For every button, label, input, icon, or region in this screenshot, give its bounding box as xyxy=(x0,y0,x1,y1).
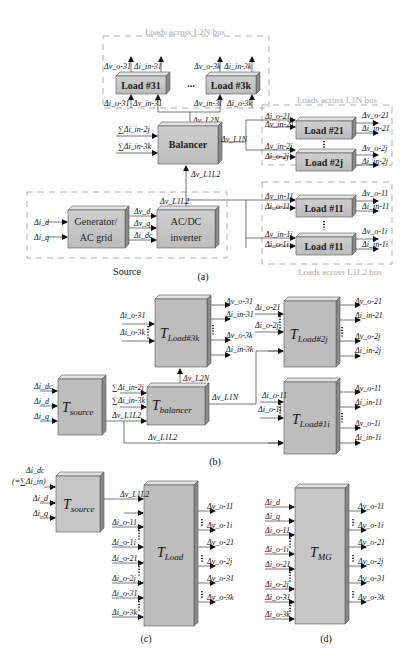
svg-text:Δv_o-31: Δv_o-31 xyxy=(103,62,131,71)
svg-text:Δv_L1N: Δv_L1N xyxy=(211,393,239,402)
svg-text:Δv_in-21: Δv_in-21 xyxy=(264,120,294,129)
svg-text:Δi_dc: Δi_dc xyxy=(25,466,45,475)
svg-text:Δi_in-31: Δi_in-31 xyxy=(133,62,162,71)
svg-text:inverter: inverter xyxy=(170,232,202,243)
svg-text:Generator/: Generator/ xyxy=(75,216,118,227)
svg-text:Δi_q: Δi_q xyxy=(33,412,49,421)
block-load-11: Load #11 xyxy=(296,195,356,217)
tload-outputs: Δv_o-11 Δv_o-1i Δv_o-21 Δv_o-2j Δv_o-31 … xyxy=(198,502,234,602)
tmg-outputs: Δv_o-11 Δv_o-1i Δv_o-21 Δv_o-2j Δv_o-31 … xyxy=(349,502,385,602)
figure: Loads across L2N bus Loads across L1N bu… xyxy=(0,0,408,664)
group-source-label: Source xyxy=(113,266,141,277)
group-l2n-label: Loads across L2N bus xyxy=(145,27,226,37)
svg-text:Δi_o-1i: Δi_o-1i xyxy=(264,545,289,554)
svg-text:Δi_in-2j: Δi_in-2j xyxy=(361,157,389,166)
svg-text:∑Δi_in-3k: ∑Δi_in-3k xyxy=(118,142,152,151)
svg-text:Δv_in-3l: Δv_in-3l xyxy=(193,99,222,108)
caption-a: (a) xyxy=(197,271,208,283)
svg-text:Δv_L1L2: Δv_L1L2 xyxy=(159,197,189,206)
svg-text:Δi_o-31: Δi_o-31 xyxy=(103,99,130,108)
svg-text:Δi_o-31: Δi_o-31 xyxy=(119,311,146,320)
svg-text:Δi_d: Δi_d xyxy=(32,494,49,503)
caption-b: (b) xyxy=(209,456,221,468)
group-l1l2-label: Loads across L1L2 bus xyxy=(298,267,382,277)
block-load-31: Load #31 xyxy=(116,72,170,94)
block-t-source: Tsource xyxy=(58,375,106,435)
svg-text:Δv_o-11: Δv_o-11 xyxy=(357,502,384,511)
svg-text:Δi_d: Δi_d xyxy=(33,218,50,227)
svg-text:Δv_o-3k: Δv_o-3k xyxy=(206,593,234,602)
block-load-3k: Load #3k xyxy=(206,72,260,94)
svg-text:Δi_o-2j: Δi_o-2j xyxy=(264,152,290,161)
svg-text:Δv_o-1i: Δv_o-1i xyxy=(357,521,383,530)
svg-text:Δv_o-2j: Δv_o-2j xyxy=(361,144,388,153)
block-t-source-c: Tsource xyxy=(56,472,104,532)
svg-text:Δv_q: Δv_q xyxy=(133,219,150,228)
svg-text:Δi_dc: Δi_dc xyxy=(133,231,153,240)
svg-text:Load #3k: Load #3k xyxy=(211,80,252,91)
block-generator-ac-grid: Generator/ AC grid xyxy=(68,206,129,248)
block-t-load-2j: TLoad#2j xyxy=(284,297,340,367)
svg-text:Δi_o-31: Δi_o-31 xyxy=(264,593,291,602)
svg-text:Δi_q: Δi_q xyxy=(264,512,280,521)
svg-text:Δv_o-21: Δv_o-21 xyxy=(354,297,382,306)
svg-text:Δi_o-21: Δi_o-21 xyxy=(111,554,138,563)
svg-text:Δi_o-3k: Δi_o-3k xyxy=(226,99,253,108)
svg-text:Δi_o-21: Δi_o-21 xyxy=(254,303,281,312)
svg-text:Δi_o-1i: Δi_o-1i xyxy=(111,538,136,547)
ellipsis: ... xyxy=(187,78,195,89)
block-t-load-3k: TLoad#3k xyxy=(155,295,211,367)
block-load-2j: Load #2j xyxy=(296,149,356,171)
svg-text:AC/DC: AC/DC xyxy=(171,216,202,227)
svg-text:Δi_in-1i: Δi_in-1i xyxy=(361,240,388,249)
svg-text:Load #11: Load #11 xyxy=(304,203,343,214)
svg-text:Load #11: Load #11 xyxy=(304,241,343,252)
svg-text:Load #21: Load #21 xyxy=(304,125,344,136)
svg-text:Δv_o-11: Δv_o-11 xyxy=(361,189,388,198)
svg-text:Load #2j: Load #2j xyxy=(305,157,343,168)
svg-text:Δv_L1L2: Δv_L1L2 xyxy=(111,411,141,420)
panel-c: Tsource Δi_dc (=∑Δi_in) Δi_d Δi_q TLoad … xyxy=(12,466,234,645)
svg-text:Δv_in-2j: Δv_in-2j xyxy=(264,142,293,151)
svg-text:Δv_o-11: Δv_o-11 xyxy=(206,502,233,511)
svg-text:Δv_o-2j: Δv_o-2j xyxy=(206,557,233,566)
svg-text:Δv_L2N: Δv_L2N xyxy=(182,374,210,383)
svg-text:Δv_o-21: Δv_o-21 xyxy=(357,538,385,547)
svg-text:Δi_in-11: Δi_in-11 xyxy=(361,202,389,211)
svg-text:Δi_in-1i: Δi_in-1i xyxy=(354,433,381,442)
svg-text:Δv_o-21: Δv_o-21 xyxy=(206,538,234,547)
svg-text:Δi_in-3k: Δi_in-3k xyxy=(225,345,254,354)
svg-text:Δi_o-31: Δi_o-31 xyxy=(111,589,138,598)
block-t-mg: TMG xyxy=(295,484,349,624)
svg-text:Δv_L1L2: Δv_L1L2 xyxy=(147,433,177,442)
svg-text:Δv_in-1i: Δv_in-1i xyxy=(264,230,292,239)
svg-text:Δv_o-1i: Δv_o-1i xyxy=(361,227,387,236)
svg-text:Δi_o-1i: Δi_o-1i xyxy=(257,405,282,414)
svg-text:Δv_o-31: Δv_o-31 xyxy=(357,574,385,583)
svg-text:Δv_o-31: Δv_o-31 xyxy=(225,297,253,306)
tload-inputs: Δi_o-11 Δi_o-1i Δi_o-21 Δi_o-2j Δi_o-31 … xyxy=(111,518,143,617)
svg-text:∑Δi_in-3k: ∑Δi_in-3k xyxy=(112,396,146,405)
svg-text:Δv_in-31: Δv_in-31 xyxy=(132,99,162,108)
svg-text:Δv_o-1i: Δv_o-1i xyxy=(354,419,380,428)
group-l1n-label: Loads across L1N bus xyxy=(297,95,378,105)
svg-text:Δv_o-2j: Δv_o-2j xyxy=(357,557,384,566)
svg-text:Δi_in-3k: Δi_in-3k xyxy=(223,62,252,71)
svg-text:Δi_d: Δi_d xyxy=(264,498,281,507)
svg-text:Δv_L1N: Δv_L1N xyxy=(220,135,248,144)
svg-text:Δi_q: Δi_q xyxy=(32,509,48,518)
svg-text:Δv_o-1i: Δv_o-1i xyxy=(206,521,232,530)
svg-text:Δv_d: Δv_d xyxy=(133,207,151,216)
panel-a: Loads across L2N bus Loads across L1N bu… xyxy=(27,27,392,283)
svg-text:Δi_o-11: Δi_o-11 xyxy=(264,202,290,211)
svg-text:Δi_in-2j: Δi_in-2j xyxy=(354,346,382,355)
svg-text:Δi_in-11: Δi_in-11 xyxy=(354,398,382,407)
svg-text:Δi_o-3k: Δi_o-3k xyxy=(111,608,138,617)
tmg-inputs: Δi_d Δi_q Δi_o-11 Δi_o-1i Δi_o-21 Δi_o-2… xyxy=(264,498,294,619)
svg-text:Load #31: Load #31 xyxy=(121,80,161,91)
caption-c: (c) xyxy=(140,633,151,645)
svg-text:Δv_L1L2: Δv_L1L2 xyxy=(190,170,220,179)
svg-text:Δv_o-31: Δv_o-31 xyxy=(206,574,234,583)
block-balancer: Balancer xyxy=(158,122,222,164)
block-t-balancer: Tbalancer xyxy=(147,383,209,425)
